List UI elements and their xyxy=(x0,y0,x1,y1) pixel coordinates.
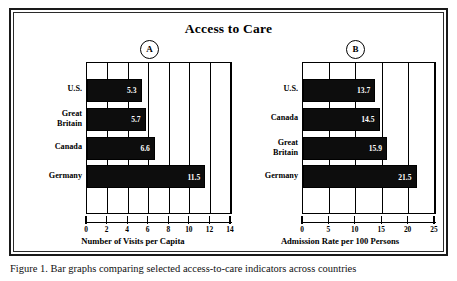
axis-tick-label: 12 xyxy=(206,225,213,234)
axis-tick-label: 14 xyxy=(226,225,233,234)
gridline xyxy=(189,63,190,213)
x-axis-b: 0510152025 xyxy=(302,216,436,238)
bar-value-label: 21.5 xyxy=(398,172,411,181)
axis-line-b xyxy=(302,222,436,223)
axis-tick-label: 8 xyxy=(166,225,170,234)
page-title: Access to Care xyxy=(11,21,446,37)
plot-area-a: 5.35.76.611.5 xyxy=(86,62,232,214)
bar: 21.5 xyxy=(303,165,417,188)
gridline xyxy=(408,63,409,213)
x-axis-title-b: Admission Rate per 100 Persons xyxy=(239,236,441,246)
axis-tick-label: 10 xyxy=(351,225,358,234)
axis-tick-label: 25 xyxy=(430,225,437,234)
axis-line-a xyxy=(86,222,232,223)
axis-tick xyxy=(301,216,302,224)
bar-value-label: 6.6 xyxy=(140,144,150,153)
axis-tick-label: 0 xyxy=(300,225,304,234)
axis-tick-label: 10 xyxy=(185,225,192,234)
axis-tick-label: 20 xyxy=(404,225,411,234)
x-axis-title-a: Number of Visits per Capita xyxy=(23,236,243,246)
figure-caption: Figure 1. Bar graphs comparing selected … xyxy=(10,262,450,279)
panel-badge-a: A xyxy=(140,40,159,59)
axis-tick xyxy=(433,216,434,224)
category-label: U.S. xyxy=(67,85,82,95)
axis-tick xyxy=(188,216,189,224)
gridline xyxy=(169,63,170,213)
chart-panel-b: B U.S.CanadaGreat BritainGermany 13.714.… xyxy=(239,40,441,252)
axis-tick-label: 0 xyxy=(84,225,88,234)
gridline xyxy=(434,63,435,213)
figure-frame: Access to Care A U.S.Great BritainCanada… xyxy=(9,8,448,256)
bar: 11.5 xyxy=(87,165,205,188)
plot-area-b: 13.714.515.921.5 xyxy=(302,62,436,214)
bar: 15.9 xyxy=(303,137,387,160)
axis-tick xyxy=(328,216,329,224)
bar-value-label: 5.7 xyxy=(131,115,141,124)
axis-tick-label: 4 xyxy=(125,225,129,234)
axis-tick xyxy=(381,216,382,224)
category-label: Germany xyxy=(49,171,82,181)
gridline xyxy=(210,63,211,213)
axis-tick xyxy=(229,216,230,224)
bar-value-label: 15.9 xyxy=(369,144,382,153)
axis-tick xyxy=(354,216,355,224)
bar-value-label: 13.7 xyxy=(357,86,370,95)
axis-tick xyxy=(147,216,148,224)
category-labels-a: U.S.Great BritainCanadaGermany xyxy=(23,62,85,214)
axis-tick-label: 6 xyxy=(146,225,150,234)
bar: 13.7 xyxy=(303,79,375,102)
axis-tick-label: 15 xyxy=(377,225,384,234)
axis-tick xyxy=(209,216,210,224)
x-axis-a: 02468101214 xyxy=(86,216,232,238)
panel-badge-b: B xyxy=(346,40,365,59)
category-label: Canada xyxy=(271,114,298,124)
category-label: U.S. xyxy=(283,85,298,95)
bar-value-label: 14.5 xyxy=(361,115,374,124)
axis-tick xyxy=(168,216,169,224)
category-label: Germany xyxy=(265,171,298,181)
category-label: Great Britain xyxy=(273,138,298,157)
bar: 5.7 xyxy=(87,108,146,131)
chart-panel-a: A U.S.Great BritainCanadaGermany 5.35.76… xyxy=(23,40,243,252)
bar: 5.3 xyxy=(87,79,142,102)
bar: 6.6 xyxy=(87,137,155,160)
bar-value-label: 11.5 xyxy=(187,172,200,181)
axis-tick xyxy=(106,216,107,224)
gridline xyxy=(230,63,231,213)
axis-tick xyxy=(407,216,408,224)
axis-tick xyxy=(127,216,128,224)
category-label: Canada xyxy=(55,142,82,152)
bar-value-label: 5.3 xyxy=(127,86,137,95)
axis-tick xyxy=(85,216,86,224)
axis-tick-label: 2 xyxy=(105,225,109,234)
category-labels-b: U.S.CanadaGreat BritainGermany xyxy=(239,62,301,214)
category-label: Great Britain xyxy=(57,109,82,128)
bar: 14.5 xyxy=(303,108,380,131)
axis-tick-label: 5 xyxy=(327,225,331,234)
